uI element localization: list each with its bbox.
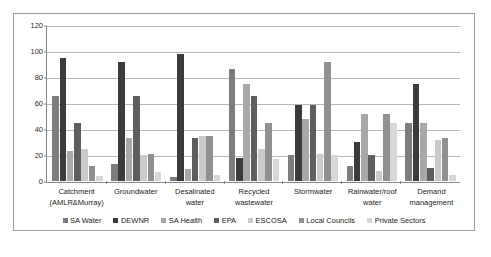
bar <box>185 169 192 181</box>
bar <box>214 175 221 181</box>
bar <box>60 58 67 181</box>
bar <box>413 84 420 181</box>
y-tick-mark <box>44 78 47 79</box>
bar <box>229 69 236 181</box>
x-tick-mark <box>165 181 166 184</box>
y-tick-mark <box>44 156 47 157</box>
legend-item[interactable]: ESCOSA <box>248 217 287 225</box>
x-axis-label: Desalinated water <box>165 187 224 208</box>
bar <box>435 140 442 181</box>
y-tick-label: 100 <box>30 48 43 56</box>
bars-layer <box>48 26 460 181</box>
legend-item[interactable]: DEWNR <box>113 217 149 225</box>
legend-item[interactable]: EPA <box>214 217 236 225</box>
x-tick-mark <box>282 181 283 184</box>
bar <box>302 119 309 181</box>
x-tick-mark <box>106 181 107 184</box>
legend-label: Private Sectors <box>375 217 426 225</box>
x-axis-label: Groundwater <box>106 187 165 208</box>
bar <box>368 155 375 181</box>
bar <box>81 149 88 181</box>
x-tick-mark <box>341 181 342 184</box>
legend-label: Local Councils <box>306 217 355 225</box>
bar <box>376 171 383 181</box>
bar <box>310 105 317 181</box>
legend-item[interactable]: SA Health <box>161 217 202 225</box>
chart-frame: 020406080100120 Catchment (AMLR&Murray)G… <box>13 13 475 231</box>
bar <box>420 123 427 181</box>
bar <box>354 142 361 181</box>
bar-group <box>166 26 225 181</box>
bar <box>273 159 280 181</box>
bar <box>295 105 302 181</box>
legend-swatch-icon <box>214 218 219 223</box>
bar <box>96 176 103 181</box>
x-axis-label: Rainwater/roof water <box>343 187 402 208</box>
bar <box>449 175 456 181</box>
legend-label: DEWNR <box>121 217 149 225</box>
bar <box>236 158 243 181</box>
bar-group <box>48 26 107 181</box>
bar <box>383 114 390 181</box>
bar <box>317 154 324 181</box>
bar <box>324 62 331 181</box>
bar <box>347 166 354 182</box>
chart-legend: SA WaterDEWNRSA HealthEPAESCOSALocal Cou… <box>14 217 474 225</box>
bar <box>427 168 434 181</box>
bar <box>251 96 258 181</box>
y-tick-label: 60 <box>35 100 43 108</box>
bar <box>265 123 272 181</box>
legend-swatch-icon <box>367 218 372 223</box>
bar <box>74 123 81 181</box>
bar-group <box>107 26 166 181</box>
bar <box>390 123 397 181</box>
bar <box>361 114 368 181</box>
bar <box>243 84 250 181</box>
bar <box>118 62 125 181</box>
y-tick-label: 120 <box>30 22 43 30</box>
x-axis-label: Demand management <box>402 187 461 208</box>
legend-label: SA Health <box>169 217 202 225</box>
y-tick-mark <box>44 52 47 53</box>
bar-group <box>401 26 460 181</box>
bar <box>170 177 177 181</box>
legend-swatch-icon <box>113 218 118 223</box>
y-tick-label: 20 <box>35 152 43 160</box>
bar <box>126 138 133 181</box>
y-tick-mark <box>44 26 47 27</box>
legend-item[interactable]: Local Councils <box>299 217 355 225</box>
bar <box>405 123 412 181</box>
bar <box>331 155 338 181</box>
bar <box>288 155 295 181</box>
legend-item[interactable]: SA Water <box>63 217 102 225</box>
y-tick-label: 80 <box>35 74 43 82</box>
y-tick-mark <box>44 104 47 105</box>
bar <box>206 136 213 181</box>
legend-swatch-icon <box>161 218 166 223</box>
bar-group <box>342 26 401 181</box>
bar <box>199 136 206 181</box>
plot-area: 020406080100120 <box>46 26 460 183</box>
bar <box>89 166 96 182</box>
bar <box>67 151 74 181</box>
plot-region: 020406080100120 <box>46 26 460 183</box>
x-axis-label: Stormwater <box>284 187 343 208</box>
bar <box>140 155 147 181</box>
y-tick-label: 0 <box>39 178 43 186</box>
legend-swatch-icon <box>248 218 253 223</box>
legend-item[interactable]: Private Sectors <box>367 217 425 225</box>
legend-label: SA Water <box>70 217 101 225</box>
legend-label: ESCOSA <box>256 217 287 225</box>
bar <box>177 54 184 181</box>
bar-group <box>225 26 284 181</box>
x-axis-labels: Catchment (AMLR&Murray)GroundwaterDesali… <box>47 187 461 208</box>
legend-swatch-icon <box>63 218 68 223</box>
bar <box>52 96 59 181</box>
x-axis-label: Recycled wastewater <box>224 187 283 208</box>
y-tick-mark <box>44 182 47 183</box>
legend-label: EPA <box>222 217 236 225</box>
bar <box>442 138 449 181</box>
y-tick-mark <box>44 130 47 131</box>
x-tick-mark <box>400 181 401 184</box>
bar <box>133 96 140 181</box>
